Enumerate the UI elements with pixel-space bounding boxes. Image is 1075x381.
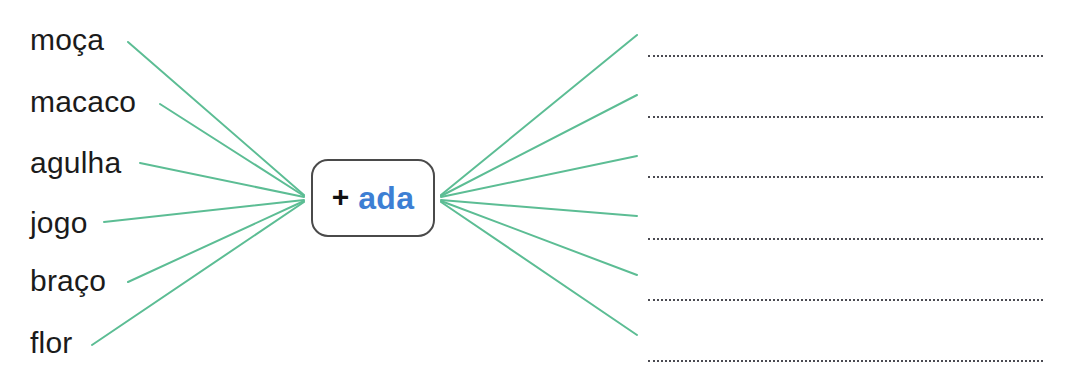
answer-line-2[interactable] <box>648 116 1043 118</box>
connector-blank-1 <box>441 35 637 195</box>
answer-line-3[interactable] <box>648 176 1043 178</box>
connector-blank-5 <box>441 201 637 275</box>
suffix-label: ada <box>358 182 414 214</box>
answer-line-6[interactable] <box>648 360 1043 362</box>
connector-flor <box>92 202 304 345</box>
connector-moca <box>128 42 304 195</box>
connector-agulha <box>140 163 304 197</box>
connector-braco <box>128 201 304 282</box>
connector-layer <box>0 0 1075 381</box>
plus-icon: + <box>332 182 350 212</box>
worksheet-canvas: moçamacacoagulhajogobraçoflor + ada <box>0 0 1075 381</box>
word-jogo: jogo <box>30 208 88 238</box>
word-agulha: agulha <box>30 148 121 178</box>
connector-macaco <box>160 104 304 196</box>
word-moca: moça <box>30 25 104 55</box>
word-macaco: macaco <box>30 87 136 117</box>
connector-jogo <box>104 200 304 222</box>
connector-blank-3 <box>441 156 637 197</box>
answer-line-1[interactable] <box>648 55 1043 57</box>
answer-line-4[interactable] <box>648 238 1043 240</box>
connector-blank-6 <box>441 202 637 335</box>
right-connector-group <box>441 35 637 335</box>
answer-line-5[interactable] <box>648 299 1043 301</box>
connector-blank-2 <box>441 95 637 196</box>
word-flor: flor <box>30 328 72 358</box>
suffix-stem-box[interactable]: + ada <box>311 159 435 237</box>
word-braco: braço <box>30 266 106 296</box>
connector-blank-4 <box>441 200 637 216</box>
